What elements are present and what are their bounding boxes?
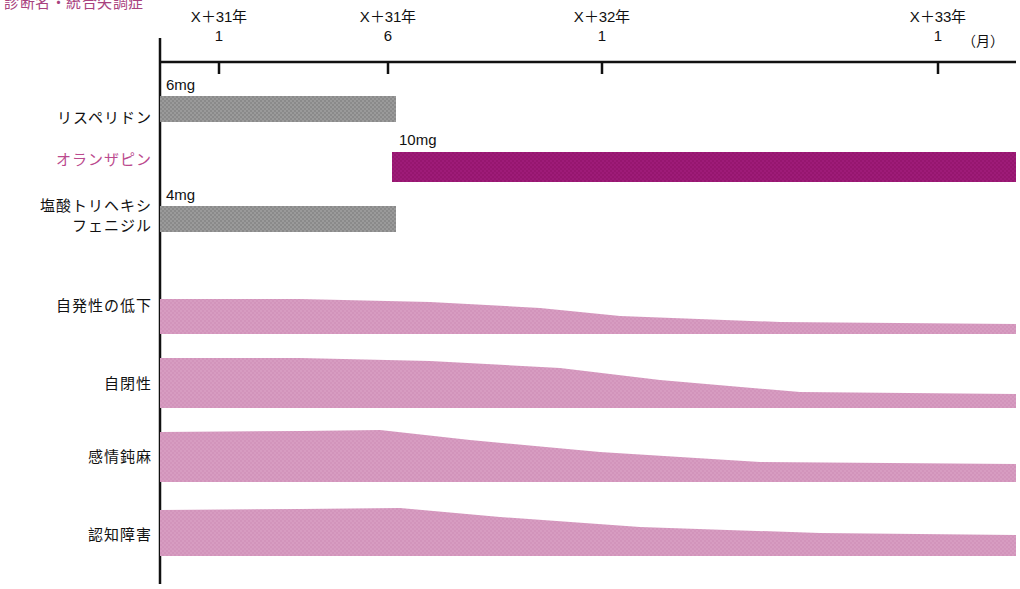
medication-label-2: 塩酸トリヘキシ フェニジル	[20, 196, 152, 237]
timeline-chart: 診断名・統合失調症 X＋31年1X＋31年6X＋32年1X＋33年1（月）リスペ…	[0, 0, 1020, 589]
symptom-bands	[160, 299, 1016, 556]
axis-tick-label-0: X＋31年1	[159, 8, 279, 46]
axis-tick-year: X＋33年	[878, 8, 998, 27]
symptom-label-3: 認知障害	[30, 525, 152, 545]
axis-tick-month: 1	[159, 27, 279, 46]
symptom-label-1: 自閉性	[30, 374, 152, 394]
symptom-label-0: 自発性の低下	[30, 296, 152, 316]
symptom-band-2[interactable]	[160, 430, 1016, 482]
medication-bars	[160, 96, 1016, 232]
axis-tick-label-1: X＋31年6	[328, 8, 448, 46]
symptom-band-3[interactable]	[160, 508, 1016, 556]
axis-tick-month: 1	[542, 27, 662, 46]
axis-tick-year: X＋31年	[328, 8, 448, 27]
axis-tick-year: X＋31年	[159, 8, 279, 27]
chart-canvas	[0, 0, 1020, 589]
medication-bar-1[interactable]	[392, 152, 1016, 182]
symptom-band-0[interactable]	[160, 299, 1016, 334]
dose-label-0: 6mg	[166, 76, 195, 93]
symptom-band-1[interactable]	[160, 358, 1016, 408]
dose-label-1: 10mg	[399, 131, 437, 148]
medication-bar-2[interactable]	[160, 206, 396, 232]
axis-tick-month: 6	[328, 27, 448, 46]
axis-tick-year: X＋32年	[542, 8, 662, 27]
axis-unit-label: （月）	[962, 30, 1004, 50]
medication-bar-0[interactable]	[160, 96, 396, 122]
medication-label-1: オランザピン	[20, 150, 152, 170]
dose-label-2: 4mg	[166, 186, 195, 203]
axis-tick-label-2: X＋32年1	[542, 8, 662, 46]
medication-label-0: リスペリドン	[20, 108, 152, 128]
symptom-label-2: 感情鈍麻	[30, 447, 152, 467]
